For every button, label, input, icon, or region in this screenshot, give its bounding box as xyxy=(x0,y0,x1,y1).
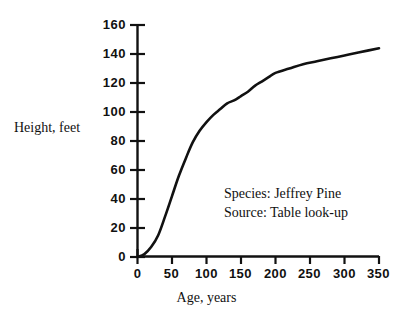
chart-page: 160 140 120 100 80 60 40 20 0 0 50 100 1… xyxy=(0,0,413,328)
x-tick-label-350: 350 xyxy=(358,266,399,281)
y-tick-label-120: 120 xyxy=(78,75,126,90)
y-tick-label-140: 140 xyxy=(78,46,126,61)
y-tick-label-160: 160 xyxy=(78,17,126,32)
growth-curve-line xyxy=(138,48,380,257)
y-tick-label-0: 0 xyxy=(78,249,126,264)
annotation-species: Species: Jeffrey Pine xyxy=(224,184,348,203)
y-tick-label-20: 20 xyxy=(78,220,126,235)
y-tick-label-40: 40 xyxy=(78,191,126,206)
x-axis-title: Age, years xyxy=(0,290,413,306)
y-axis-title: Height, feet xyxy=(14,120,80,136)
y-tick-label-80: 80 xyxy=(78,133,126,148)
y-tick-label-60: 60 xyxy=(78,162,126,177)
annotation-source: Source: Table look-up xyxy=(224,203,348,222)
y-tick-label-100: 100 xyxy=(78,104,126,119)
chart-annotation: Species: Jeffrey Pine Source: Table look… xyxy=(224,184,348,222)
